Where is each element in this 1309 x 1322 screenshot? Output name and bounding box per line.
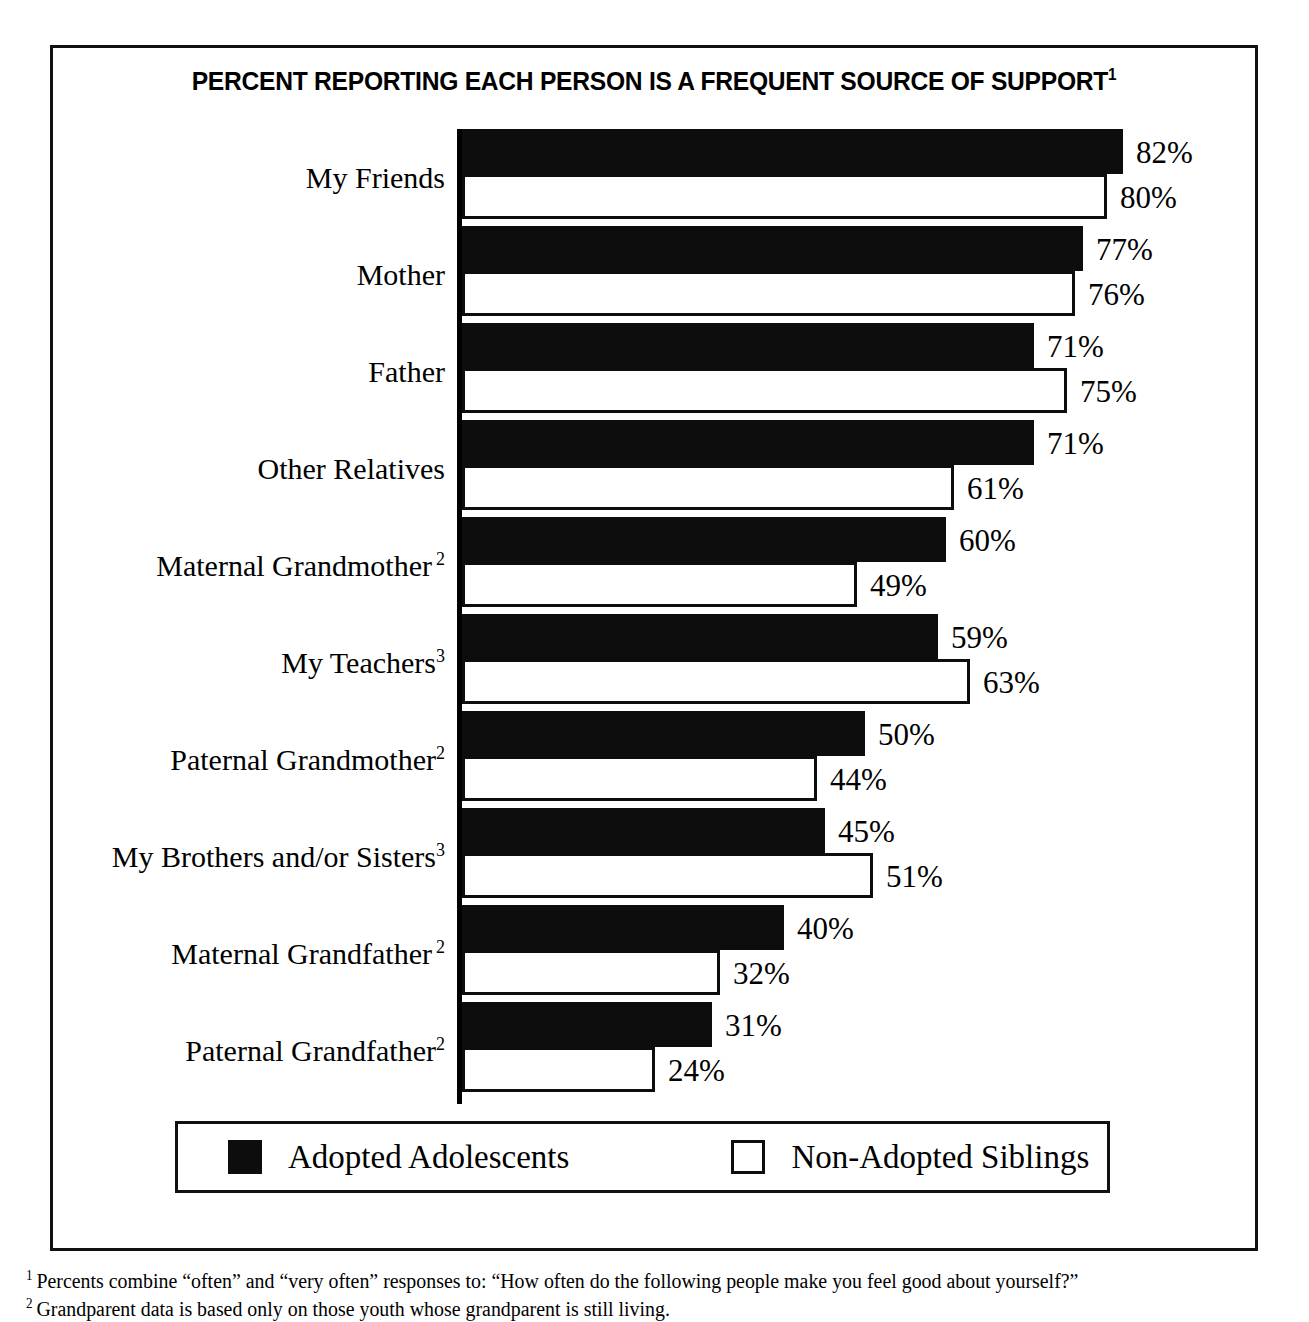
bar-row-adopted: 45%: [462, 808, 965, 853]
bar-value-label: 59%: [938, 621, 1008, 652]
bar-value-label: 61%: [954, 472, 1024, 503]
footnote-marker: 1: [26, 1268, 33, 1283]
bar-row-adopted: 59%: [462, 614, 1078, 659]
bar-value-label: 71%: [1034, 330, 1104, 361]
chart-title-text: PERCENT REPORTING EACH PERSON IS A FREQU…: [192, 66, 1108, 96]
footnote-text: Grandparent data is based only on those …: [36, 1298, 669, 1320]
bar: [462, 420, 1034, 465]
bar: [462, 853, 873, 898]
category-label-text: Other Relatives: [258, 452, 445, 485]
bar-value-label: 75%: [1067, 375, 1137, 406]
bar-row-adopted: 71%: [462, 323, 1174, 368]
bar-value-label: 63%: [970, 666, 1040, 697]
bar-row-non-adopted: 61%: [462, 465, 1094, 510]
chart-frame: PERCENT REPORTING EACH PERSON IS A FREQU…: [50, 45, 1258, 1251]
bar-value-label: 76%: [1075, 278, 1145, 309]
bar-group: Father71%75%: [53, 323, 1261, 420]
footnote: 1Percents combine “often” and “very ofte…: [26, 1267, 1258, 1295]
bar: [462, 808, 825, 853]
bar: [462, 323, 1034, 368]
category-label-text: Maternal Grandmother: [156, 549, 432, 582]
legend-swatch-hollow-icon: [731, 1140, 765, 1174]
category-footnote-marker: 2: [436, 1034, 445, 1054]
bar-group: My Brothers and/or Sisters345%51%: [53, 808, 1261, 905]
category-label-text: My Brothers and/or Sisters: [112, 840, 436, 873]
legend-label: Non-Adopted Siblings: [791, 1141, 1089, 1174]
bar: [462, 950, 720, 995]
bar-row-non-adopted: 51%: [462, 853, 1013, 898]
bar-row-non-adopted: 80%: [462, 174, 1247, 219]
bar-value-label: 82%: [1123, 136, 1193, 167]
bar-group: Paternal Grandmother250%44%: [53, 711, 1261, 808]
bar-value-label: 24%: [655, 1054, 725, 1085]
bar: [462, 271, 1075, 316]
category-label: Other Relatives: [258, 454, 445, 484]
bar-row-adopted: 40%: [462, 905, 924, 950]
bar-value-label: 51%: [873, 860, 943, 891]
bar: [462, 226, 1083, 271]
bar-row-non-adopted: 63%: [462, 659, 1110, 704]
bar-row-non-adopted: 49%: [462, 562, 997, 607]
category-label: Father: [368, 357, 445, 387]
bar-row-non-adopted: 76%: [462, 271, 1215, 316]
category-label-text: My Friends: [306, 161, 445, 194]
bar: [462, 1002, 712, 1047]
bar-group: Other Relatives71%61%: [53, 420, 1261, 517]
bar-row-adopted: 60%: [462, 517, 1086, 562]
category-label: Maternal Grandfather2: [171, 939, 445, 969]
bar: [462, 517, 946, 562]
bar-value-label: 49%: [857, 569, 927, 600]
category-label: Paternal Grandmother2: [170, 745, 445, 775]
bar-row-non-adopted: 32%: [462, 950, 860, 995]
category-label-text: My Teachers: [281, 646, 436, 679]
category-label: Paternal Grandfather2: [185, 1036, 445, 1066]
category-label: Mother: [357, 260, 445, 290]
bar: [462, 905, 784, 950]
bar-value-label: 31%: [712, 1009, 782, 1040]
bar-group: Mother77%76%: [53, 226, 1261, 323]
bar: [462, 659, 970, 704]
bar-value-label: 80%: [1107, 181, 1177, 212]
bar-group: My Teachers359%63%: [53, 614, 1261, 711]
chart-legend: Adopted AdolescentsNon-Adopted Siblings: [175, 1121, 1110, 1193]
bar-value-label: 60%: [946, 524, 1016, 555]
bar-value-label: 50%: [865, 718, 935, 749]
bar-row-adopted: 77%: [462, 226, 1223, 271]
bar-value-label: 71%: [1034, 427, 1104, 458]
category-label: My Teachers3: [281, 648, 445, 678]
bar-value-label: 77%: [1083, 233, 1153, 264]
bar-value-label: 44%: [817, 763, 887, 794]
bar-row-non-adopted: 75%: [462, 368, 1207, 413]
bar-value-label: 40%: [784, 912, 854, 943]
bar: [462, 1047, 655, 1092]
bar: [462, 756, 817, 801]
footnote: 2Grandparent data is based only on those…: [26, 1295, 1258, 1322]
bar-row-adopted: 31%: [462, 1002, 852, 1047]
bar-row-adopted: 50%: [462, 711, 1005, 756]
plot-area: My Friends82%80%Mother77%76%Father71%75%…: [53, 126, 1261, 1106]
bar: [462, 129, 1123, 174]
bar: [462, 711, 865, 756]
bar: [462, 465, 954, 510]
legend-item: Adopted Adolescents: [228, 1140, 569, 1174]
footnotes: 1Percents combine “often” and “very ofte…: [26, 1267, 1258, 1322]
legend-label: Adopted Adolescents: [288, 1141, 569, 1174]
category-label-text: Mother: [357, 258, 445, 291]
category-label-text: Paternal Grandfather: [185, 1034, 436, 1067]
legend-swatch-filled-icon: [228, 1140, 262, 1174]
bar: [462, 174, 1107, 219]
category-footnote-marker: 2: [436, 743, 445, 763]
bar-row-non-adopted: 24%: [462, 1047, 795, 1092]
category-label-text: Maternal Grandfather: [171, 937, 432, 970]
bar-row-adopted: 82%: [462, 129, 1263, 174]
category-footnote-marker: 2: [436, 937, 445, 957]
bar-row-adopted: 71%: [462, 420, 1174, 465]
footnote-text: Percents combine “often” and “very often…: [36, 1270, 1078, 1292]
legend-item: Non-Adopted Siblings: [731, 1140, 1089, 1174]
category-label: Maternal Grandmother2: [156, 551, 445, 581]
bar-group: Paternal Grandfather231%24%: [53, 1002, 1261, 1099]
category-label-text: Father: [368, 355, 445, 388]
bar: [462, 368, 1067, 413]
bar: [462, 614, 938, 659]
category-label: My Friends: [306, 163, 445, 193]
